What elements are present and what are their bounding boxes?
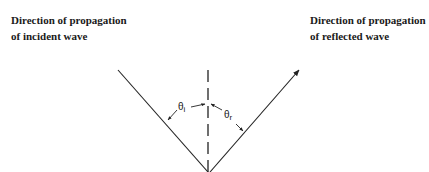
diagram-canvas: θi θr (0, 0, 429, 172)
theta-i-subscript: i (184, 105, 186, 114)
incident-angle-arrow-left (168, 110, 177, 120)
reflection-diagram: Direction of propagation of incident wav… (0, 0, 429, 172)
reflected-angle-arrow-left (211, 104, 222, 110)
theta-r-subscript: r (230, 113, 233, 122)
theta-i-label: θi (178, 101, 186, 114)
theta-r-label: θr (224, 109, 233, 122)
incident-ray (118, 70, 208, 172)
reflected-ray-arrow (210, 70, 299, 172)
incident-angle-arrow-right (191, 104, 205, 107)
reflected-angle-arrow-right (236, 124, 243, 131)
